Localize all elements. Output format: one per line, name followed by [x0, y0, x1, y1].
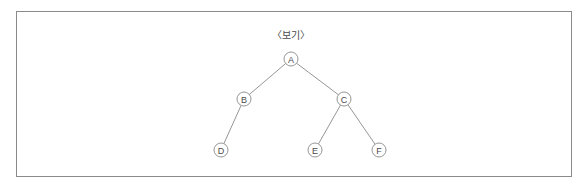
diagram-caption: 〈보기〉	[272, 27, 311, 42]
screenshot-canvas: 〈보기〉 ABCDEF	[0, 0, 588, 189]
